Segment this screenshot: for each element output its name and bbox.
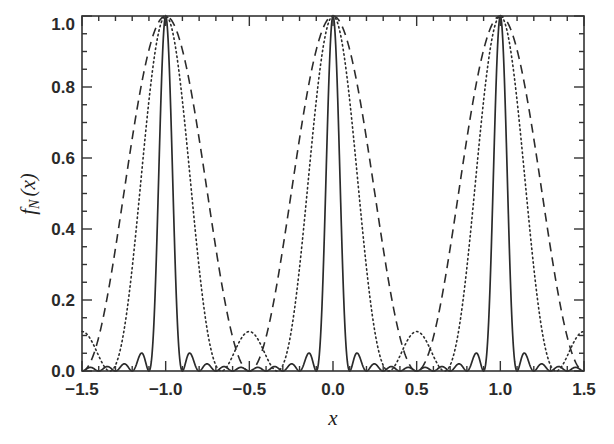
y-tick-label: 0.4 — [51, 220, 75, 239]
y-tick-label: 0.0 — [51, 362, 75, 381]
x-tick-label: 1.5 — [572, 380, 596, 399]
y-axis-title-arg: (x) — [16, 173, 40, 196]
y-tick-label: 0.8 — [51, 78, 75, 97]
series-line-N2 — [82, 16, 584, 371]
y-tick-label: 0.6 — [51, 149, 75, 168]
chart: −1.5−1.0−0.50.00.51.01.5 0.00.20.40.60.8… — [0, 0, 614, 444]
y-tick-label: 0.2 — [51, 291, 75, 310]
x-tick-label: −1.0 — [149, 380, 183, 399]
y-tick-labels: 0.00.20.40.60.81.0 — [51, 15, 75, 381]
series-line-N3 — [82, 16, 584, 371]
x-tick-label: −0.5 — [233, 380, 267, 399]
x-tick-labels: −1.5−1.0−0.50.00.51.01.5 — [65, 380, 596, 399]
x-tick-label: −1.5 — [65, 380, 99, 399]
y-axis-title: fN(x) — [16, 173, 42, 215]
y-tick-label: 1.0 — [51, 15, 75, 34]
series-line-N10 — [82, 16, 584, 371]
svg-text:fN(x): fN(x) — [16, 173, 42, 215]
x-axis-title: x — [327, 406, 338, 430]
x-tick-label: 0.0 — [321, 380, 345, 399]
x-tick-label: 0.5 — [405, 380, 429, 399]
y-axis-title-sub: N — [27, 199, 42, 210]
plot-frame — [82, 16, 584, 371]
axis-ticks — [82, 16, 584, 371]
x-tick-label: 1.0 — [489, 380, 513, 399]
curves-group — [82, 16, 584, 371]
